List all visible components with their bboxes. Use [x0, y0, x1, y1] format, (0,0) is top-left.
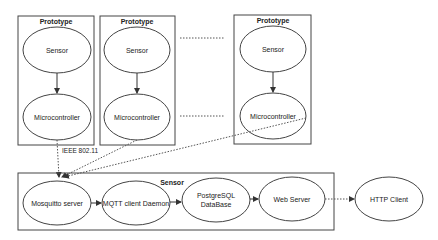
mqtt-daemon-label: MQTT client Daemon	[103, 200, 169, 207]
prototype-title-2: Prototype	[121, 18, 154, 25]
microcontroller-label-1: Microcontroller	[34, 114, 80, 121]
server-group-title: Sensor	[160, 179, 184, 186]
mosquitto-label: Mosquitto server	[31, 200, 83, 207]
web-server-label: Web Server	[274, 196, 311, 203]
sensor-label-1: Sensor	[46, 47, 68, 54]
postgresql-label: PostgreSQL DataBase	[189, 191, 243, 209]
http-client-label: HTTP Client	[370, 196, 408, 203]
microcontroller-label-2: Microcontroller	[114, 114, 160, 121]
microcontroller-label-3: Microcontroller	[250, 113, 296, 120]
edge-label-ieee: IEEE 802.11	[62, 147, 98, 154]
prototype-title-1: Prototype	[40, 18, 73, 25]
sensor-label-3: Sensor	[262, 46, 284, 53]
prototype-title-3: Prototype	[257, 17, 290, 24]
sensor-label-2: Sensor	[126, 47, 148, 54]
